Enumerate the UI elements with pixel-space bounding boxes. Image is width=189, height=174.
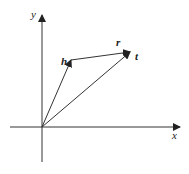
- vector-t-arrow: [42, 52, 130, 127]
- vector-h-arrow: [42, 60, 71, 127]
- vector-h-label: h: [61, 55, 67, 67]
- vector-r-arrow: [71, 52, 130, 60]
- x-axis-label: x: [171, 129, 177, 141]
- vector-r-label: r: [116, 36, 121, 48]
- vector-diagram: y x h t r: [0, 0, 189, 174]
- y-axis-label: y: [30, 8, 36, 20]
- vector-t-label: t: [135, 50, 139, 62]
